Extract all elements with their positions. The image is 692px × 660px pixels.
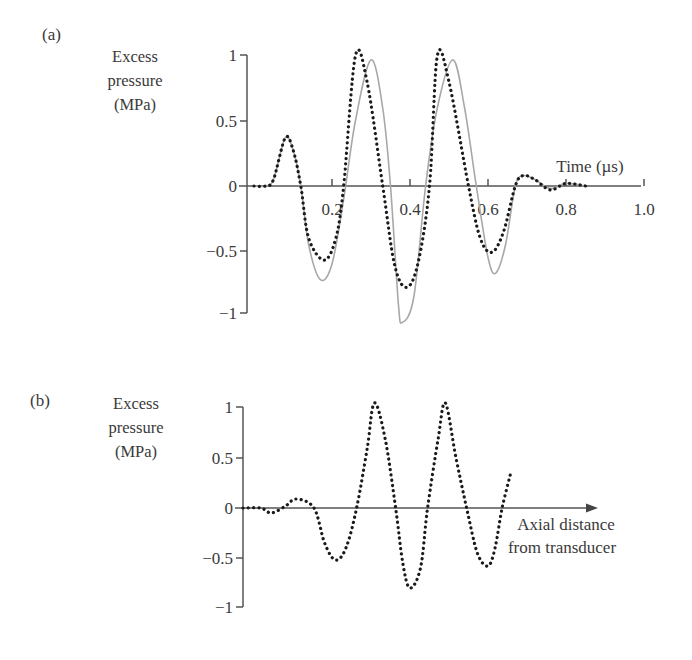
x-tick-label: 1.0 — [633, 200, 654, 219]
y-tick-label: 0 — [225, 499, 234, 518]
y-tick-label: −0.5 — [206, 242, 237, 261]
panel-b-ylabel-line1: Excess — [113, 394, 159, 413]
panel-a-ylabel-line2: pressure — [108, 71, 163, 90]
panel-b-ylabel-line3: (MPa) — [115, 442, 157, 461]
y-tick-label: −1 — [215, 598, 233, 617]
panel-b-xlabel-line1: Axial distance — [517, 515, 615, 534]
y-tick-label: 0 — [229, 177, 238, 196]
panel-b-label: (b) — [30, 391, 50, 410]
panel-a: (a) Excess pressure (MPa) 10.50−0.5−1 0.… — [42, 25, 655, 323]
y-tick-label: 0.5 — [212, 449, 233, 468]
series-line-dotted-black — [243, 403, 511, 588]
x-tick-label: 0.4 — [399, 200, 421, 219]
panel-b-ylabel-line2: pressure — [109, 418, 164, 437]
y-tick-label: 1 — [229, 46, 238, 65]
y-tick-label: −1 — [219, 304, 237, 323]
panel-a-ylabel-line3: (MPa) — [114, 95, 156, 114]
panel-b: (b) Excess pressure (MPa) 10.50−0.5−1 Ax… — [30, 391, 616, 617]
series-line-solid-gray — [254, 60, 586, 323]
panel-b-x-axis-arrowhead — [586, 504, 598, 513]
panel-a-ylabel-line1: Excess — [112, 47, 158, 66]
panel-b-series — [243, 403, 511, 588]
panel-a-label: (a) — [42, 25, 61, 44]
panel-a-x-ticks: 0.20.40.60.81.0 — [321, 179, 654, 219]
y-tick-label: 0.5 — [216, 112, 237, 131]
y-tick-label: 1 — [225, 398, 234, 417]
panel-b-xlabel-line2: from transducer — [508, 538, 616, 557]
panel-a-xlabel: Time (µs) — [556, 157, 623, 176]
x-tick-label: 0.8 — [555, 200, 576, 219]
panel-a-y-ticks: 10.50−0.5−1 — [206, 46, 247, 323]
figure: (a) Excess pressure (MPa) 10.50−0.5−1 0.… — [0, 0, 692, 660]
y-tick-label: −0.5 — [202, 549, 233, 568]
